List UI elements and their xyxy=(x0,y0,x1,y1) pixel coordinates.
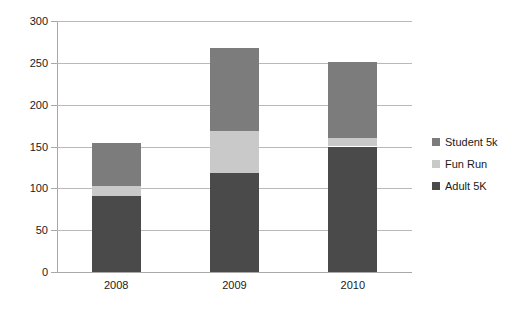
legend-item: Fun Run xyxy=(432,153,518,175)
chart-legend: Student 5kFun RunAdult 5K xyxy=(432,131,518,197)
y-axis-tick-label: 0 xyxy=(4,267,48,278)
bar-stack xyxy=(328,21,377,272)
x-axis-tick-label: 2008 xyxy=(76,279,156,291)
legend-label: Fun Run xyxy=(445,159,487,170)
plot-area xyxy=(57,21,412,272)
legend-swatch-icon xyxy=(432,182,440,190)
bar-segment xyxy=(328,138,377,146)
bar-segment xyxy=(92,143,141,186)
bar-segment xyxy=(210,173,259,272)
bar-segment xyxy=(328,147,377,273)
y-axis-tick-label: 50 xyxy=(4,225,48,236)
x-axis-tick-label: 2009 xyxy=(195,279,275,291)
y-axis-tick-label: 150 xyxy=(4,142,48,153)
bar-chart: 050100150200250300 200820092010 Student … xyxy=(0,0,521,309)
legend-swatch-icon xyxy=(432,138,440,146)
legend-item: Adult 5K xyxy=(432,175,518,197)
bar-stack xyxy=(92,21,141,272)
bar-segment xyxy=(328,62,377,138)
legend-label: Student 5k xyxy=(445,137,498,148)
bar-stack xyxy=(210,21,259,272)
bar-segment xyxy=(92,196,141,272)
legend-swatch-icon xyxy=(432,160,440,168)
y-axis-tick-label: 250 xyxy=(4,58,48,69)
bar-segment xyxy=(210,131,259,174)
y-axis-tick-label: 300 xyxy=(4,16,48,27)
bar-segment xyxy=(92,186,141,196)
y-axis-tick-label: 200 xyxy=(4,100,48,111)
legend-label: Adult 5K xyxy=(445,181,487,192)
bar-segment xyxy=(210,48,259,131)
gridline xyxy=(57,272,412,273)
legend-item: Student 5k xyxy=(432,131,518,153)
x-axis-tick-label: 2010 xyxy=(313,279,393,291)
y-axis-tick-label: 100 xyxy=(4,183,48,194)
